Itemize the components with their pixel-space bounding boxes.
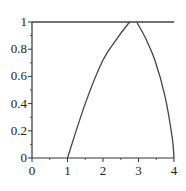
x-tick-label: 4 [171, 163, 178, 178]
x-tick-label: 1 [64, 163, 71, 178]
y-tick-label: 0.4 [11, 96, 28, 111]
chart: 00.20.40.60.81 01234 [0, 0, 186, 191]
plot-area [32, 22, 174, 158]
y-tick-label: 0.8 [11, 41, 27, 56]
y-tick-label: 0 [21, 150, 28, 165]
y-tick-label: 0.2 [11, 123, 27, 138]
x-tick-label: 0 [29, 163, 36, 178]
y-tick-label: 0.6 [11, 68, 28, 83]
x-tick-label: 2 [100, 163, 107, 178]
x-tick-label: 3 [135, 163, 142, 178]
falling-curve [137, 22, 174, 158]
y-tick-label: 1 [21, 14, 28, 29]
x-axis: 01234 [29, 158, 178, 178]
y-axis: 00.20.40.60.81 [11, 14, 32, 165]
rising-curve [68, 22, 130, 158]
